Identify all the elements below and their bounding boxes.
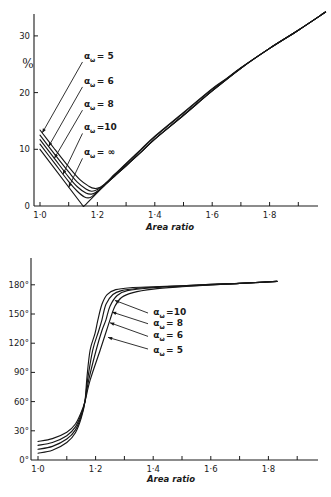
x-tick-label: 1·0 [33, 210, 47, 220]
y-tick-label: 120° [9, 338, 29, 348]
annotation-label-alpha-5: αω= 5 [153, 345, 183, 357]
omega-subscript: ω [90, 56, 95, 63]
x-tick-label: 1·2 [91, 210, 105, 220]
curve-alpha-omega-infinity [40, 12, 326, 206]
annotation-value: =10 [166, 307, 186, 317]
annotation-label-alpha-6: αω= 6 [84, 76, 114, 88]
curve-alpha-omega-5 [38, 281, 277, 441]
x-axis-title: Area ratio [145, 222, 194, 232]
annotation-label-alpha-10: αω=10 [84, 122, 117, 134]
annotation-value: = ∞ [97, 147, 115, 157]
annotation-value: = 5 [97, 51, 114, 61]
x-tick-label: 1·6 [204, 464, 218, 474]
annotation-label-alpha-8: αω= 8 [84, 99, 114, 111]
leader-line-alpha-infinity [69, 158, 83, 187]
annotation-value: = 6 [97, 76, 114, 86]
annotation-value: = 8 [166, 318, 183, 328]
arrowhead-icon [110, 323, 115, 326]
curve-alpha-omega-6 [40, 12, 326, 191]
x-tick-label: 1·4 [146, 464, 160, 474]
leader-line-alpha-6 [49, 87, 83, 147]
omega-subscript: ω [90, 127, 95, 134]
annotation-value: = 6 [166, 330, 183, 340]
annotation-value: =10 [97, 122, 117, 132]
leader-line-alpha-10 [63, 133, 83, 174]
leader-line-alpha-6 [110, 323, 148, 337]
y-tick-label: 10 [19, 144, 30, 154]
x-tick-label: 1·8 [262, 464, 276, 474]
omega-subscript: ω [90, 104, 95, 111]
omega-subscript: ω [159, 312, 164, 319]
omega-subscript: ω [159, 335, 164, 342]
y-tick-label: 20 [19, 88, 30, 98]
arrowhead-icon [108, 337, 113, 340]
omega-subscript: ω [90, 152, 95, 159]
y-tick-label: 30 [19, 31, 30, 41]
x-tick-label: 1·0 [31, 464, 45, 474]
y-tick-label: 0° [19, 455, 29, 465]
figure: 1·01·21·41·61·80102030Area ratio%αω= 5αω… [0, 0, 331, 497]
curve-alpha-omega-6 [38, 281, 277, 445]
y-axis-unit-label: % [22, 57, 33, 71]
arrowhead-icon [42, 128, 46, 133]
chart-phase-angle-vs-area-ratio: 1·01·21·41·61·80°30°60°90°120°150°180°Ar… [9, 258, 318, 484]
annotation-value: = 8 [97, 99, 114, 109]
x-tick-label: 1·6 [205, 210, 219, 220]
y-tick-label: 0 [25, 201, 30, 211]
x-tick-label: 1·8 [263, 210, 277, 220]
omega-subscript: ω [90, 81, 95, 88]
y-tick-label: 180° [9, 280, 29, 290]
y-tick-label: 30° [14, 426, 29, 436]
annotation-label-alpha-infinity: αω= ∞ [84, 147, 115, 159]
curve-alpha-omega-5 [40, 12, 326, 188]
y-tick-label: 150° [9, 309, 29, 319]
annotation-label-alpha-5: αω= 5 [84, 51, 114, 63]
leader-line-alpha-8 [54, 110, 82, 158]
annotation-label-alpha-6: αω= 6 [153, 330, 183, 342]
x-axis-title: Area ratio [146, 474, 195, 484]
annotation-value: = 5 [166, 345, 183, 355]
y-tick-label: 90° [14, 367, 29, 377]
x-tick-label: 1·2 [89, 464, 103, 474]
x-tick-label: 1·4 [148, 210, 162, 220]
y-tick-label: 60° [14, 397, 29, 407]
leader-line-alpha-10 [115, 300, 148, 313]
annotation-label-alpha-8: αω= 8 [153, 318, 183, 330]
omega-subscript: ω [159, 323, 164, 330]
chart-loss-percent-vs-area-ratio: 1·01·21·41·61·80102030Area ratio%αω= 5αω… [19, 12, 325, 232]
leader-line-alpha-5 [108, 337, 148, 349]
leader-line-alpha-8 [112, 312, 148, 324]
omega-subscript: ω [159, 350, 164, 357]
